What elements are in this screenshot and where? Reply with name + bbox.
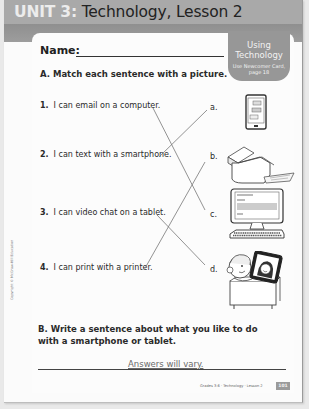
worksheet-page: UNIT 3: Technology, Lesson 2 Using Techn… <box>4 0 303 403</box>
match-line-4-b <box>144 162 205 270</box>
smartphone-picture <box>245 94 267 130</box>
section-b-heading: B. Write a sentence about what you like … <box>38 323 268 347</box>
footer-text: Grades 3-6 · Technology · Lesson 2 <box>200 384 263 388</box>
answer-text: Answers will vary. <box>128 359 203 369</box>
match-line-3-d <box>157 215 205 265</box>
page-number: 101 <box>276 382 290 390</box>
match-line-1-c <box>153 108 205 210</box>
child-video-chat-picture <box>222 251 288 313</box>
desktop-computer-picture <box>228 188 286 244</box>
printer-picture <box>224 141 298 186</box>
answer-field[interactable] <box>38 369 286 370</box>
copyright-notice: Copyright © McGraw-Hill Education <box>10 240 14 300</box>
